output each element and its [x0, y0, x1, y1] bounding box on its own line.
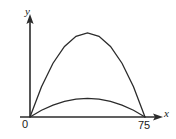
x-axis-label: x	[164, 108, 169, 119]
upper-trajectory-curve	[30, 33, 145, 117]
x-axis-tick-label-75: 75	[138, 120, 150, 131]
projectile-trajectory-figure: y x 0 75	[0, 0, 176, 139]
origin-tick-label: 0	[22, 119, 28, 130]
axis-group	[20, 14, 163, 121]
curve-group	[30, 33, 145, 117]
y-axis-label: y	[25, 6, 30, 17]
lower-trajectory-curve	[30, 98, 145, 117]
